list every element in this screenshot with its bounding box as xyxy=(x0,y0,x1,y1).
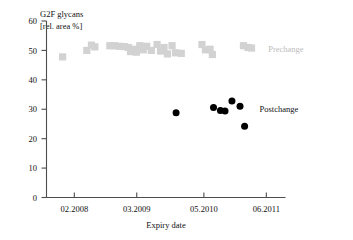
y-tick-label: 0 xyxy=(33,193,37,203)
x-tick-label: 06.2011 xyxy=(253,204,280,214)
data-point-postchange xyxy=(173,109,180,116)
data-point-prechange xyxy=(160,44,167,51)
data-point-postchange xyxy=(210,104,217,111)
data-point-prechange xyxy=(168,42,175,49)
data-point-prechange xyxy=(178,50,185,57)
data-point-prechange xyxy=(209,51,216,58)
data-point-postchange xyxy=(222,108,229,115)
x-tick-label: 02.2008 xyxy=(61,204,89,214)
chart-title: G2F glycans xyxy=(40,9,83,19)
y-tick-group: 0102030405060 xyxy=(29,16,47,203)
x-axis-title: Expiry date xyxy=(146,220,186,230)
x-tick-label: 03.2009 xyxy=(123,204,151,214)
scatter-chart: G2F glycans [rel. area %] 0102030405060 … xyxy=(0,0,353,240)
data-point-postchange xyxy=(228,98,235,105)
data-point-postchange xyxy=(241,123,248,130)
y-tick-label: 30 xyxy=(29,104,38,114)
chart-canvas: G2F glycans [rel. area %] 0102030405060 … xyxy=(0,0,353,240)
y-axis: 0102030405060 xyxy=(29,16,47,203)
data-point-prechange xyxy=(248,44,255,51)
data-point-prechange xyxy=(133,49,140,56)
y-tick-label: 20 xyxy=(29,134,38,144)
y-tick-label: 60 xyxy=(29,16,38,26)
data-point-prechange xyxy=(153,41,160,48)
x-tick-group: 02.200803.200905.201006.2011 xyxy=(61,193,280,215)
y-tick-label: 50 xyxy=(29,46,38,56)
data-point-prechange xyxy=(91,43,98,50)
data-point-prechange xyxy=(164,50,171,57)
data-point-postchange xyxy=(237,103,244,110)
y-tick-label: 40 xyxy=(29,75,38,85)
x-axis: 02.200803.200905.201006.2011 Expiry date xyxy=(46,193,286,231)
series-prechange-markers xyxy=(59,41,255,61)
y-tick-label: 10 xyxy=(29,163,38,173)
series-label-prechange: Prechange xyxy=(268,44,304,54)
x-tick-label: 05.2010 xyxy=(190,204,218,214)
series-labels: PrechangePostchange xyxy=(260,44,304,114)
series-label-postchange: Postchange xyxy=(260,104,299,114)
series-postchange-markers xyxy=(173,98,249,130)
data-point-prechange xyxy=(59,53,66,60)
